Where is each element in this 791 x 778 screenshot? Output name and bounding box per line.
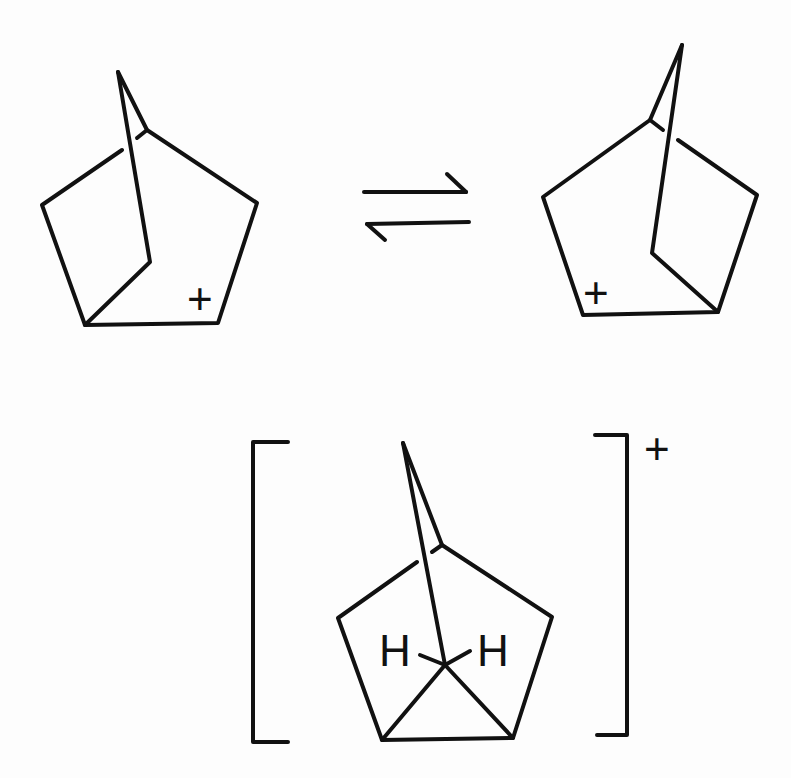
structure-nonclassical-cation: H H + (253, 424, 670, 742)
structure-left-classical-cation: + (42, 72, 257, 325)
charge-plus-right: + (583, 268, 609, 317)
bracket-charge-plus: + (644, 424, 670, 473)
reaction-scheme: + + H H + (0, 0, 791, 778)
scheme-svg: + + H H + (0, 0, 791, 778)
atom-label-h-left: H (379, 626, 411, 675)
equilibrium-arrow (364, 174, 469, 240)
atom-label-h-right: H (477, 626, 509, 675)
charge-plus-left: + (187, 274, 213, 323)
right-bracket (595, 435, 627, 735)
structure-right-classical-cation: + (543, 45, 757, 317)
left-bracket (253, 442, 288, 742)
